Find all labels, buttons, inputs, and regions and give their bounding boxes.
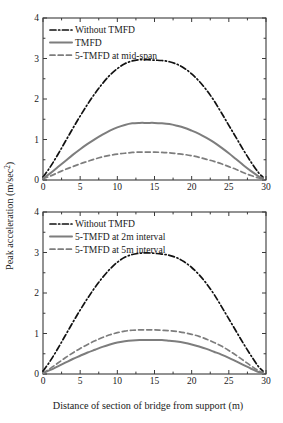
legend-label-2: 5-TMFD at 2m interval bbox=[75, 231, 166, 242]
x-tick-label: 0 bbox=[41, 182, 46, 192]
y-tick-label: 0 bbox=[34, 369, 39, 379]
x-tick-label: 15 bbox=[150, 182, 160, 192]
y-tick-label: 3 bbox=[34, 54, 39, 64]
x-tick-label: 10 bbox=[113, 182, 123, 192]
legend-label-1: Without TMFD bbox=[75, 218, 135, 229]
x-tick-label: 20 bbox=[187, 182, 197, 192]
peak-acceleration-figure: 05101520253001234Without TMFDTMFD5-TMFD … bbox=[0, 0, 283, 423]
x-tick-label: 30 bbox=[261, 182, 271, 192]
x-tick-label: 10 bbox=[113, 376, 123, 386]
x-tick-label: 30 bbox=[261, 376, 271, 386]
x-tick-label: 25 bbox=[224, 376, 234, 386]
x-tick-label: 15 bbox=[150, 376, 160, 386]
y-tick-label: 1 bbox=[34, 329, 39, 339]
y-tick-label: 3 bbox=[34, 248, 39, 258]
legend-label-3: 5-TMFD at mid-span bbox=[75, 50, 157, 61]
x-tick-label: 5 bbox=[78, 376, 83, 386]
x-axis-title: Distance of section of bridge from suppo… bbox=[53, 400, 243, 412]
x-tick-label: 0 bbox=[41, 376, 46, 386]
y-tick-label: 0 bbox=[34, 175, 39, 185]
legend-label-3: 5-TMFD at 5m interval bbox=[75, 244, 166, 255]
y-tick-label: 2 bbox=[34, 288, 39, 298]
x-axis-title-text: Distance of section of bridge from suppo… bbox=[53, 400, 243, 412]
y-axis-title: Peak acceleration (m/sec2) bbox=[4, 162, 16, 270]
y-axis-title-text: Peak acceleration (m/sec bbox=[4, 168, 16, 270]
y-axis-title-tail: ) bbox=[4, 162, 16, 165]
y-tick-label: 4 bbox=[34, 207, 39, 217]
x-tick-label: 5 bbox=[78, 182, 83, 192]
x-tick-label: 25 bbox=[224, 182, 234, 192]
y-tick-label: 1 bbox=[34, 135, 39, 145]
x-tick-label: 20 bbox=[187, 376, 197, 386]
y-tick-label: 2 bbox=[34, 94, 39, 104]
legend-label-1: Without TMFD bbox=[75, 24, 135, 35]
legend-label-2: TMFD bbox=[75, 37, 102, 48]
svg-text:Peak acceleration (m/sec2): Peak acceleration (m/sec2) bbox=[4, 162, 16, 270]
y-tick-label: 4 bbox=[34, 13, 39, 23]
